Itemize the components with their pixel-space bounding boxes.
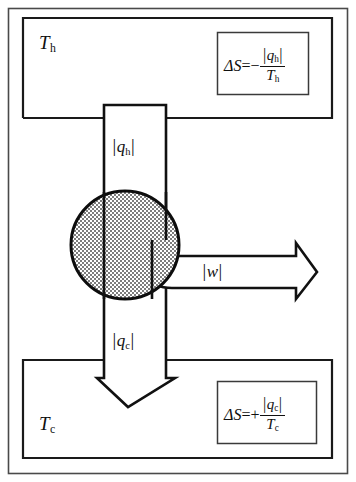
cold-reservoir-temperature: Tc [39, 414, 55, 436]
hot-den-sub: h [275, 74, 280, 84]
hot-denominator: Th [264, 67, 281, 85]
w-symbol: w [207, 262, 218, 281]
cold-entropy-formula: ΔS=+ |qc| Tc [224, 396, 285, 434]
cold-temp-symbol: T [39, 413, 50, 434]
hot-delta-s: ΔS [224, 58, 241, 74]
hot-numerator: |qh| [260, 47, 285, 66]
abs-bar-close-cold-num: | [278, 395, 282, 413]
abs-bar-close-hot-num: | [279, 46, 283, 64]
cold-sign: + [250, 407, 259, 423]
abs-bar-close-qc: | [130, 330, 135, 350]
hot-sign: − [250, 58, 259, 74]
cold-den-var: T [266, 416, 274, 432]
hot-temp-symbol: T [39, 32, 50, 53]
heat-absorbed-label: |qh| [112, 137, 135, 157]
heat-rejected-label: |qc| [112, 331, 135, 351]
abs-bar-close-w: | [218, 261, 223, 281]
qh-symbol: qh [117, 137, 131, 156]
cold-delta-s: ΔS [224, 407, 241, 423]
cold-numerator: |qc| [260, 396, 284, 415]
cold-denominator: Tc [264, 416, 280, 434]
qc-symbol: qc [117, 331, 130, 350]
hot-reservoir-temperature: Th [39, 33, 56, 55]
abs-bar-close-qh: | [130, 136, 135, 156]
hot-equals: = [241, 58, 250, 74]
hot-den-var: T [266, 67, 274, 83]
diagram-svg [0, 0, 356, 482]
work-label: |w| [202, 262, 223, 280]
hot-entropy-formula: ΔS=− |qh| Th [224, 47, 285, 85]
cold-fraction: |qc| Tc [260, 396, 284, 434]
cold-equals: = [241, 407, 250, 423]
engine-circle [71, 191, 179, 299]
hot-fraction: |qh| Th [260, 47, 285, 85]
cold-temp-subscript: c [50, 423, 55, 436]
diagram-canvas: Th Tc |qh| |qc| |w| ΔS=− |qh| Th ΔS=+ |q… [0, 0, 356, 482]
cold-den-sub: c [275, 423, 279, 433]
hot-temp-subscript: h [50, 42, 56, 55]
